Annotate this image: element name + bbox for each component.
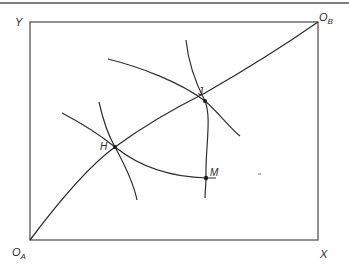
box-frame <box>30 22 318 240</box>
point-m <box>204 176 208 180</box>
x-axis-label: X <box>319 248 328 260</box>
point-j-label: J <box>197 86 204 97</box>
edgeworth-box-diagram: Y OB OA X H J M <box>0 0 349 270</box>
point-j <box>203 99 207 103</box>
origin-a-label: OA <box>12 246 26 261</box>
indifference-curve-a-j <box>108 59 240 136</box>
point-m-label: M <box>210 167 219 178</box>
contract-curve <box>30 22 318 240</box>
y-axis-label: Y <box>15 16 23 28</box>
point-h-label: H <box>100 141 108 152</box>
indifference-curve-b-j-m <box>186 40 208 198</box>
origin-b-label: OB <box>319 11 334 26</box>
point-h <box>113 145 117 149</box>
indifference-curve-a-h <box>62 113 216 178</box>
